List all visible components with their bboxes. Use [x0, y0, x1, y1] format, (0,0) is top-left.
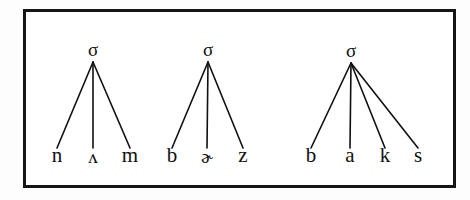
segment-leaf-label: ʌ [88, 147, 98, 166]
tree-branch [311, 63, 351, 148]
syllable-tree [172, 62, 243, 148]
segment-leaf-label: ɚ [201, 147, 213, 166]
syllable-tree [311, 63, 418, 148]
tree-branch [172, 62, 208, 148]
tree-branch-layer [0, 0, 470, 200]
syllable-root-node: σ [203, 40, 213, 59]
tree-branch [351, 63, 385, 148]
segment-leaf-label: a [345, 145, 354, 166]
segment-leaf-label: m [122, 145, 138, 166]
tree-branch [351, 63, 418, 148]
tree-branch [57, 62, 93, 148]
segment-leaf-label: s [414, 145, 422, 166]
segment-leaf-label: b [167, 145, 178, 166]
tree-branch [93, 62, 130, 148]
syllable-tree [57, 62, 130, 148]
segment-leaf-label: k [380, 145, 391, 166]
segment-leaf-label: z [238, 145, 247, 166]
tree-branch [207, 62, 208, 148]
figure-canvas: σnʌmσbɚzσbaks [0, 0, 470, 200]
segment-leaf-label: b [306, 145, 317, 166]
syllable-root-node: σ [346, 41, 356, 60]
tree-branch [350, 63, 351, 148]
tree-branch [208, 62, 243, 148]
syllable-root-node: σ [88, 40, 98, 59]
segment-leaf-label: n [52, 145, 63, 166]
